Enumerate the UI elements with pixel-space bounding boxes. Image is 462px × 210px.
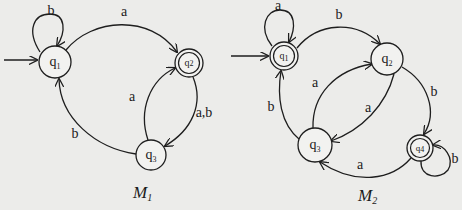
m2-state-q1-accepting: q1 — [270, 42, 298, 70]
m1-label-q1-q2: a — [121, 4, 128, 19]
m2-label-q1-q1: a — [275, 0, 282, 13]
m1-edge-q3-q1 — [59, 79, 136, 154]
m2-edge-q2-q4 — [402, 67, 430, 134]
m1-edge-q1-q2 — [66, 25, 177, 52]
automata-figure: q1 q2 q3 b a a,b a b M1 — [0, 0, 462, 210]
m2-caption: M2 — [357, 186, 377, 206]
m1-state-q3: q3 — [136, 140, 166, 170]
svg-text:q4: q4 — [416, 143, 425, 154]
m2-edge-q2-q3 — [331, 74, 394, 141]
svg-text:q2: q2 — [185, 57, 194, 68]
m1-label-q3-q2: a — [129, 89, 136, 104]
m2-label-q4-q4: b — [452, 151, 459, 166]
m2-state-q3: q3 — [298, 128, 332, 162]
m2-edge-q3-q2 — [313, 64, 372, 128]
m2-label-q4-q3: a — [357, 157, 364, 172]
m2-label-q3-q1: b — [268, 99, 275, 114]
m2-label-q1-q2: b — [336, 7, 343, 22]
m2-edge-q3-q1 — [279, 71, 300, 140]
m2-edge-q1-q1 — [265, 10, 294, 46]
m1-state-q1: q1 — [39, 46, 71, 78]
m2-edge-q4-q3 — [320, 158, 411, 177]
m2-label-q2-q3: a — [365, 100, 372, 115]
m2-state-q4-accepting: q4 — [407, 135, 433, 161]
m1-label-q3-q1: b — [72, 126, 79, 141]
m2-edge-q1-q2 — [297, 27, 380, 48]
m2-state-q2: q2 — [371, 43, 403, 75]
m1-label-q2-q3: a,b — [196, 105, 213, 120]
machine-m2: q1 q2 q3 q4 a b a a b b a b M2 — [231, 0, 459, 206]
m1-edge-q3-q2 — [144, 68, 175, 140]
m1-label-q1-q1: b — [48, 3, 55, 18]
machine-m1: q1 q2 q3 b a a,b a b M1 — [4, 3, 212, 203]
m2-label-q3-q2: a — [312, 75, 319, 90]
m1-caption: M1 — [132, 183, 152, 203]
m2-label-q2-q4: b — [431, 84, 438, 99]
m1-edge-q2-q3 — [165, 77, 197, 146]
m1-state-q2-accepting: q2 — [175, 49, 203, 77]
